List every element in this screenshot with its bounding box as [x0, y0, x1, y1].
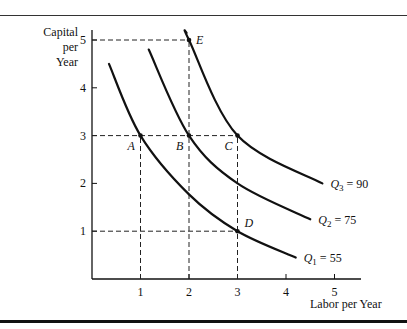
y-tick-label: 1	[80, 224, 86, 238]
y-tick-label: 4	[80, 81, 86, 95]
x-tick-label: 4	[283, 285, 289, 299]
y-tick-label: 2	[80, 176, 86, 190]
point-b-marker	[187, 133, 192, 138]
x-tick-label: 2	[186, 285, 192, 299]
point-d-label: D	[244, 216, 254, 230]
y-tick-label: 3	[80, 129, 86, 143]
q-value: = 75	[331, 213, 356, 227]
isoquant-q2-curve	[149, 50, 311, 220]
point-c-marker	[235, 133, 240, 138]
point-d-marker	[235, 229, 240, 234]
point-e-label: E	[195, 33, 204, 47]
y-tick-label: 5	[80, 33, 86, 47]
q-letter: Q	[318, 213, 327, 227]
q-value: = 55	[317, 251, 342, 265]
x-tick-label: 1	[138, 285, 144, 299]
point-a-label: A	[127, 139, 136, 153]
q-value: = 90	[344, 177, 369, 191]
q-letter: Q	[330, 177, 339, 191]
isoquant-q1-curve	[109, 64, 296, 258]
point-e-marker	[187, 38, 192, 43]
x-axis-label: Labor per Year	[310, 297, 382, 312]
isoquant-q3-curve	[185, 30, 323, 183]
isoquant-q2-label: Q2 = 75	[318, 213, 356, 229]
point-a-marker	[138, 133, 143, 138]
point-b-label: B	[176, 139, 184, 153]
bottom-rule	[0, 320, 407, 323]
isoquant-q3-label: Q3 = 90	[330, 177, 368, 193]
q-letter: Q	[304, 251, 313, 265]
isoquant-chart: 1234512345 Q1 = 55Q2 = 75Q3 = 90 ABCDE	[0, 0, 407, 329]
isoquant-q1-label: Q1 = 55	[304, 251, 342, 267]
x-tick-label: 3	[235, 285, 241, 299]
point-c-label: C	[225, 139, 234, 153]
